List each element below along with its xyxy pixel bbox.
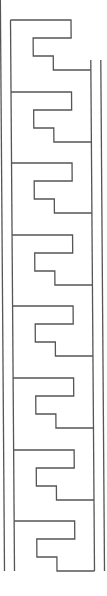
meander-motif [14,521,94,571]
outer-left-rail [0,0,4,571]
meander-motif [12,235,92,285]
inner-left-rail [11,20,15,571]
meander-motif [14,450,94,500]
meander-svg [0,0,107,596]
meander-motif [12,163,92,213]
meander-motif [11,20,91,70]
outer-right-rail [101,60,105,571]
meander-motif [13,378,93,428]
meander-motif [11,92,91,142]
inner-right-rail [91,60,95,571]
meander-motif [13,306,93,356]
meander-border-pattern [0,0,107,596]
